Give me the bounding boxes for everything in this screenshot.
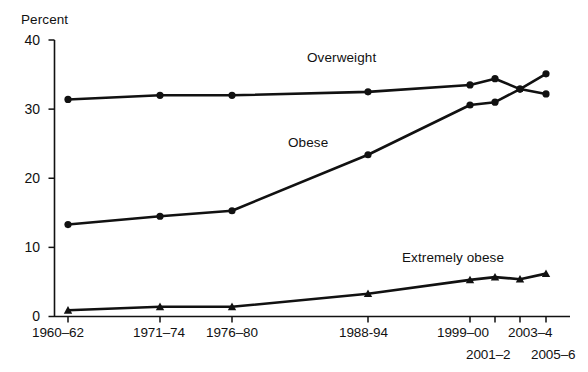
chart-container: Percent 40 30 20 10 0 1960–62 1971–74 19…	[0, 0, 588, 372]
series-line-extremely-obese	[68, 274, 546, 311]
data-point	[491, 75, 498, 82]
data-point	[542, 90, 549, 97]
data-point	[156, 92, 163, 99]
x-tick-marks	[68, 317, 546, 323]
y-tick-marks	[49, 40, 55, 317]
data-point	[466, 101, 473, 108]
data-point	[491, 99, 498, 106]
data-point	[64, 221, 71, 228]
plot-area	[0, 0, 588, 372]
data-point	[228, 92, 235, 99]
data-point	[542, 70, 549, 77]
series-lines	[68, 74, 546, 310]
series-line-overweight	[68, 79, 546, 100]
data-point	[228, 207, 235, 214]
data-point	[516, 85, 523, 92]
data-point	[156, 213, 163, 220]
data-point	[364, 151, 371, 158]
data-point	[364, 88, 371, 95]
data-point	[64, 96, 71, 103]
data-point	[466, 81, 473, 88]
series-points	[64, 70, 550, 313]
